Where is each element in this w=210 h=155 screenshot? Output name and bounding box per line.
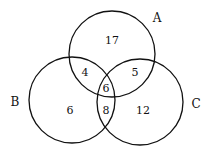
set-label-b: B xyxy=(11,95,20,109)
region-value-b-and-c-only: 8 xyxy=(103,104,110,117)
region-value-a-and-b-only: 4 xyxy=(82,66,89,79)
region-value-a-and-b-and-c: 6 xyxy=(103,82,110,95)
region-value-b-only: 6 xyxy=(67,104,74,117)
region-value-a-only: 17 xyxy=(105,34,119,47)
set-label-a: A xyxy=(152,11,162,25)
region-value-c-only: 12 xyxy=(136,104,150,117)
venn-diagram: ABC 174568612 xyxy=(0,0,210,155)
set-circle-c xyxy=(97,59,183,145)
region-value-a-and-c-only: 5 xyxy=(132,66,139,79)
set-label-c: C xyxy=(191,97,200,111)
